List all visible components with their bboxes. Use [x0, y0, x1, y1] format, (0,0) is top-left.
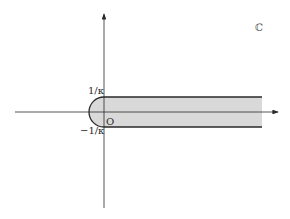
upper-bound-label: 1/κ — [88, 85, 105, 96]
complex-plane-label: ℂ — [255, 22, 263, 33]
lower-bound-label: −1/κ — [80, 125, 105, 136]
complex-plane-diagram: 1/κ −1/κ O ℂ — [0, 0, 290, 219]
origin-label: O — [106, 116, 114, 127]
